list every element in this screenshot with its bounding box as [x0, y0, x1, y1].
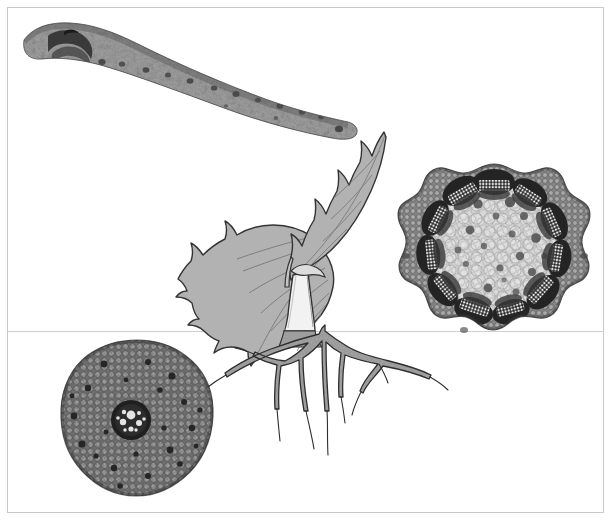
- stem-epidermal-projection: [580, 253, 588, 259]
- root-stele: [111, 400, 151, 440]
- seedling-habit: [175, 125, 465, 500]
- leaf-upper: [285, 132, 386, 287]
- botanical-plate: [0, 0, 611, 520]
